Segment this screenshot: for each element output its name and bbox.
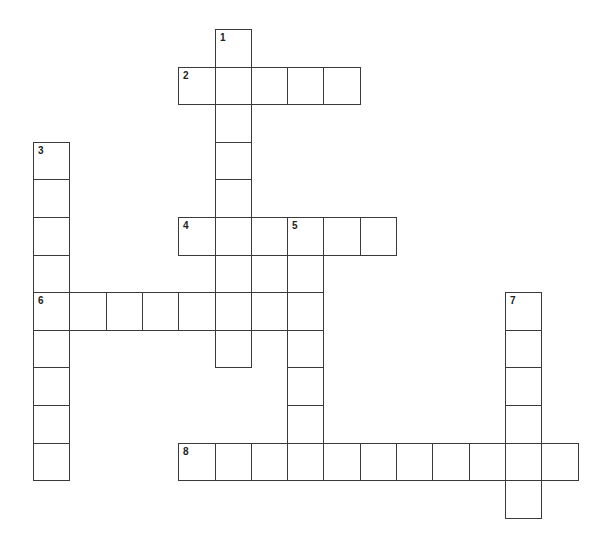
crossword-cell[interactable] — [215, 292, 252, 331]
crossword-cell[interactable] — [251, 292, 288, 331]
crossword-cell[interactable]: 4 — [178, 217, 216, 256]
crossword-cell[interactable] — [505, 367, 542, 406]
crossword-cell[interactable] — [323, 67, 361, 105]
crossword-cell[interactable] — [323, 217, 361, 256]
crossword-cell[interactable] — [469, 443, 506, 481]
crossword-cell[interactable] — [33, 179, 70, 218]
crossword-cell[interactable] — [69, 292, 107, 331]
crossword-cell[interactable] — [432, 443, 470, 481]
crossword-cell[interactable] — [505, 405, 542, 444]
crossword-cell[interactable] — [142, 292, 179, 331]
crossword-grid: 12364578 — [0, 0, 608, 541]
crossword-cell[interactable] — [505, 480, 542, 519]
crossword-cell[interactable] — [360, 217, 397, 256]
crossword-cell[interactable] — [287, 67, 324, 105]
clue-number: 4 — [183, 221, 189, 231]
clue-number: 6 — [38, 296, 44, 306]
crossword-cell[interactable] — [251, 217, 288, 256]
crossword-cell[interactable] — [33, 217, 70, 256]
crossword-cell[interactable] — [251, 443, 288, 481]
crossword-cell[interactable] — [396, 443, 433, 481]
crossword-cell[interactable]: 3 — [33, 142, 70, 180]
crossword-cell[interactable] — [33, 330, 70, 368]
crossword-cell[interactable] — [287, 330, 324, 368]
crossword-cell[interactable] — [287, 405, 324, 444]
crossword-cell[interactable]: 8 — [178, 443, 216, 481]
crossword-cell[interactable]: 7 — [505, 292, 542, 331]
crossword-cell[interactable] — [215, 179, 252, 218]
crossword-cell[interactable] — [287, 367, 324, 406]
crossword-cell[interactable]: 2 — [178, 67, 216, 105]
crossword-cell[interactable] — [505, 443, 542, 481]
crossword-cell[interactable] — [287, 443, 324, 481]
clue-number: 3 — [38, 146, 44, 156]
crossword-cell[interactable] — [106, 292, 143, 331]
clue-number: 8 — [183, 447, 189, 457]
clue-number: 5 — [292, 221, 298, 231]
crossword-cell[interactable] — [215, 443, 252, 481]
clue-number: 2 — [183, 71, 189, 81]
crossword-cell[interactable] — [323, 443, 361, 481]
crossword-cell[interactable] — [33, 405, 70, 444]
crossword-cell[interactable] — [33, 367, 70, 406]
crossword-cell[interactable] — [541, 443, 579, 481]
crossword-cell[interactable] — [33, 255, 70, 293]
crossword-cell[interactable] — [215, 142, 252, 180]
clue-number: 7 — [510, 296, 516, 306]
crossword-cell[interactable] — [215, 104, 252, 143]
crossword-cell[interactable] — [33, 443, 70, 481]
crossword-cell[interactable] — [287, 255, 324, 293]
crossword-cell[interactable]: 1 — [215, 29, 252, 68]
clue-number: 1 — [220, 33, 226, 43]
crossword-cell[interactable] — [505, 330, 542, 368]
crossword-cell[interactable] — [360, 443, 397, 481]
crossword-cell[interactable] — [215, 217, 252, 256]
crossword-cell[interactable] — [178, 292, 216, 331]
crossword-cell[interactable]: 6 — [33, 292, 70, 331]
crossword-cell[interactable] — [287, 292, 324, 331]
crossword-cell[interactable] — [251, 67, 288, 105]
crossword-cell[interactable] — [215, 67, 252, 105]
crossword-cell[interactable] — [215, 330, 252, 368]
crossword-cell[interactable]: 5 — [287, 217, 324, 256]
crossword-cell[interactable] — [215, 255, 252, 293]
